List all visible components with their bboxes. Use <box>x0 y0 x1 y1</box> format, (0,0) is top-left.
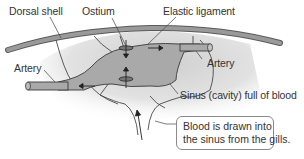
artery-left <box>26 82 69 90</box>
label-dorsal-shell: Dorsal shell <box>9 6 63 17</box>
callout-line-1: Blood is drawn into <box>183 120 273 133</box>
callout-blood-drawn: Blood is drawn into the sinus from the g… <box>176 116 274 150</box>
artery-right <box>180 44 213 52</box>
label-artery-right: Artery <box>207 58 234 69</box>
callout-line-2: the sinus from the gills. <box>183 133 273 146</box>
label-artery-left: Artery <box>14 63 41 74</box>
label-elastic-ligament: Elastic ligament <box>163 6 235 17</box>
label-sinus: Sinus (cavity) full of blood <box>180 90 297 101</box>
label-ostium: Ostium <box>82 6 115 17</box>
